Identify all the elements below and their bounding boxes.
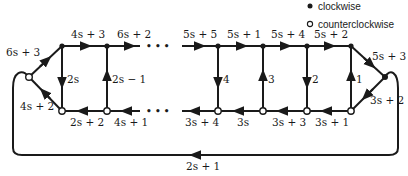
arrow-top6-to-right: [364, 58, 371, 64]
bottom-label-2: 4s + 1: [114, 116, 148, 128]
node-bottom-hollow: [59, 108, 65, 114]
arrow-bottom1-to-left: [44, 92, 50, 98]
bottom-label-5: 3s + 3: [272, 116, 306, 128]
label-3s-plus-2: 3s + 2: [370, 94, 404, 106]
legend: clockwise counterclockwise: [307, 1, 394, 30]
top-ellipsis: • • •: [146, 41, 170, 51]
hollow-circle-icon: [307, 21, 312, 26]
top-label-3: 5s + 5: [183, 28, 217, 40]
node-bottom-hollow: [304, 108, 310, 114]
node-bottom-hollow: [260, 108, 266, 114]
node-top-filled: [304, 43, 309, 48]
bottom-label-6: 3s + 1: [315, 116, 349, 128]
node-top-filled: [215, 43, 220, 48]
node-left-hollow: [26, 74, 33, 81]
bottom-label-4: 3s: [237, 116, 249, 128]
node-top-filled: [260, 43, 265, 48]
bottom-label-1: 2s + 2: [70, 116, 104, 128]
vertical-label-5: 2: [312, 73, 319, 85]
top-label-2: 6s + 2: [117, 28, 151, 40]
legend-clockwise-label: clockwise: [318, 1, 361, 12]
cycle-graph-diagram: clockwise counterclockwise 2s + 1 6s + 3…: [0, 0, 408, 176]
outer-loop-label: 2s + 1: [186, 160, 220, 172]
nodes: [26, 43, 388, 114]
label-6s-plus-3: 6s + 3: [6, 46, 40, 58]
top-label-6: 5s + 2: [314, 28, 348, 40]
arrow-left-to-top1: [40, 60, 47, 67]
node-top-filled: [104, 43, 109, 48]
vertical-label-3: 4: [223, 73, 230, 85]
node-top-filled: [59, 43, 64, 48]
vertical-label-4: 3: [268, 73, 275, 85]
label-5s-plus-3: 5s + 3: [372, 50, 406, 62]
node-bottom-hollow: [348, 108, 354, 114]
node-bottom-hollow: [104, 108, 110, 114]
node-bottom-hollow: [215, 108, 221, 114]
bottom-label-3: 3s + 4: [185, 116, 220, 128]
bottom-ellipsis: • • •: [146, 106, 170, 116]
filled-circle-icon: [308, 4, 313, 9]
label-4s-plus-2: 4s + 2: [20, 100, 54, 112]
node-right-filled: [382, 74, 388, 80]
vertical-label-1: 2s: [67, 73, 79, 85]
top-label-4: 5s + 1: [227, 28, 261, 40]
vertical-label-2: 2s − 1: [112, 73, 146, 85]
vertical-arrows: [62, 75, 351, 83]
vertical-label-6: 1: [356, 73, 363, 85]
node-top-filled: [348, 43, 353, 48]
top-label-1: 4s + 3: [71, 28, 105, 40]
top-label-5: 5s + 4: [271, 28, 306, 40]
